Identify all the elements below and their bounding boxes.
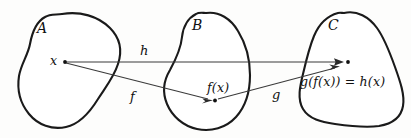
- point-dot-fx: [213, 99, 217, 103]
- set-label-a: A: [37, 21, 47, 35]
- arrow-label-g: g: [272, 88, 281, 101]
- diagram-canvas: [0, 0, 411, 138]
- set-label-c: C: [328, 18, 339, 32]
- arrow-label-h: h: [140, 44, 149, 57]
- arrow-label-f: f: [130, 90, 135, 103]
- set-blob-b: [164, 13, 250, 130]
- set-blob-a: [18, 13, 120, 128]
- function-composition-diagram: A B C h f g x f(x) g(f(x)) = h(x): [0, 0, 411, 138]
- set-label-b: B: [192, 18, 203, 32]
- point-label-fx: f(x): [207, 82, 229, 95]
- set-blob-c: [300, 12, 404, 127]
- point-label-x: x: [50, 55, 57, 68]
- point-dot-gfx: [346, 60, 350, 64]
- point-dot-x: [63, 60, 67, 64]
- point-label-gfx: g(f(x)) = h(x): [300, 76, 385, 89]
